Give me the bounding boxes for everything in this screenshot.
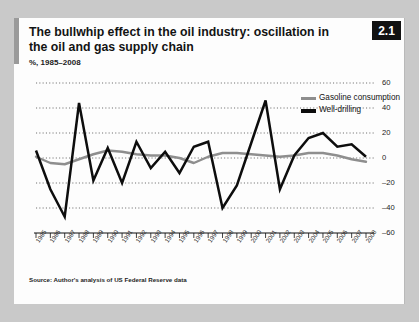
figure-card: 2.1 The bullwhip effect in the oil indus… — [14, 18, 405, 304]
legend-swatch-gasoline-consumption — [301, 97, 316, 100]
y-axis-tick-label: –20 — [382, 178, 404, 187]
legend-swatch-well-drilling — [301, 109, 316, 113]
y-axis-tick-label: –40 — [382, 203, 404, 212]
chart-plot-area — [14, 18, 405, 304]
y-axis-tick-label: 20 — [382, 128, 404, 137]
figure-source-note: Source: Author's analysis of US Federal … — [29, 276, 187, 283]
y-axis-tick-label: 60 — [382, 78, 404, 87]
y-axis-tick-label: 40 — [382, 103, 404, 112]
series-line-gasoline-consumption — [36, 151, 366, 165]
legend-label-gasoline-consumption: Gasoline consumption — [319, 93, 400, 102]
y-axis-tick-label: 0 — [382, 153, 404, 162]
figure-page: 2.1 The bullwhip effect in the oil indus… — [0, 0, 419, 322]
y-axis-tick-label: –60 — [382, 228, 404, 237]
legend-label-well-drilling: Well-drilling — [319, 105, 361, 114]
